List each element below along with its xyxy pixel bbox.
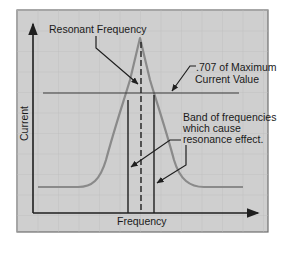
band-label-line3: resonance effect. [183,133,263,145]
x-axis-label: Frequency [117,215,167,227]
point-707-label-line1: .707 of Maximum [196,61,277,73]
point-707-label-line2: Current Value [195,73,259,85]
resonant-frequency-label: Resonant Frequency [49,23,147,35]
resonance-diagram: Resonant Frequency .707 of Maximum Curre… [0,0,282,260]
y-axis-label: Current [18,106,30,141]
